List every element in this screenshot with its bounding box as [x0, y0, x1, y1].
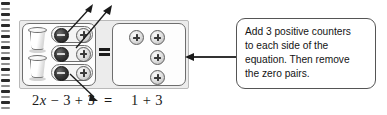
positive-counter-icon [129, 30, 144, 45]
callout-line-3: equation. Then remove [245, 53, 368, 67]
equation-right-side: 1 + 3 [131, 92, 163, 109]
positive-counter-icon [150, 50, 165, 65]
negative-counter-icon [54, 47, 69, 62]
callout-connector-arrow-icon [185, 53, 236, 62]
equation-left-side: 2x − 3 + 3 [32, 92, 95, 109]
instruction-callout: Add 3 positive counters to each side of … [236, 18, 376, 89]
cup-2 [28, 55, 47, 79]
spiral-binding [0, 0, 12, 115]
negative-counter-icon [54, 66, 69, 81]
instruction-callout-text: Add 3 positive counters to each side of … [245, 25, 368, 81]
equation-equals: = [104, 92, 112, 109]
cup-1 [28, 27, 47, 51]
arrow-to-added-positive-2-icon [72, 2, 127, 50]
callout-line-4: the zero pairs. [245, 67, 368, 81]
positive-counter-icon [150, 30, 165, 45]
callout-line-1: Add 3 positive counters [245, 25, 368, 39]
callout-line-2: to each side of the [245, 39, 368, 53]
positive-counter-icon [150, 70, 165, 85]
equation-line: 2x − 3 + 3 = 1 + 3 [19, 92, 189, 112]
diagram-canvas: 2x − 3 + 3 = 1 + 3 Add 3 positive counte… [0, 0, 387, 115]
